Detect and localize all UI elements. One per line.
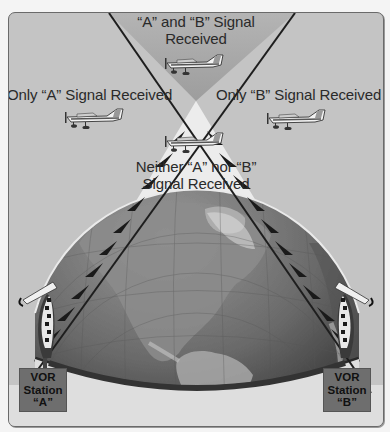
vor-reception-diagram <box>9 13 383 426</box>
only-a-label: Only “A” Signal Received <box>8 86 172 103</box>
diagram-frame: “A” and “B” Signal Received Only “A” Sig… <box>8 12 384 427</box>
only-b-label: Only “B” Signal Received <box>216 86 381 103</box>
airplane-icon-only-a <box>65 109 123 129</box>
vor-station-b-label: VOR Station “B” <box>323 368 371 412</box>
neither-signal-label: Neither “A” nor “B” Signal Received <box>133 158 259 192</box>
airplane-icon-only-b <box>267 110 325 130</box>
vor-station-a-label: VOR Station “A” <box>19 368 67 412</box>
both-signals-label: “A” and “B” Signal Received <box>137 13 255 47</box>
